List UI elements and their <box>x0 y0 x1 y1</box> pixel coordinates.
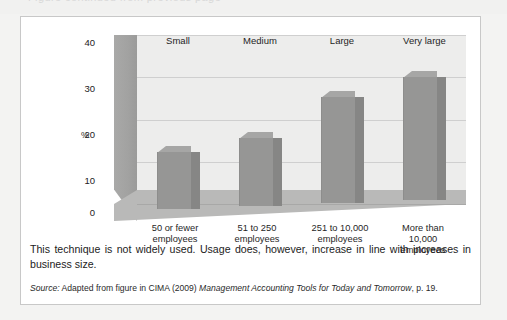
bar-small <box>157 152 191 209</box>
column-header-very-large: Very large <box>383 35 466 46</box>
figure-box: % 40 30 20 10 0 Small Medium Large <box>20 16 481 305</box>
bar-small-side <box>191 152 200 209</box>
column-header-large: Large <box>301 35 383 46</box>
bar-very-large-front <box>403 77 438 200</box>
bar-small-front <box>157 152 192 209</box>
document-page: Figure continued from previous page % 40… <box>0 0 507 320</box>
bar-very-large-side <box>437 77 446 200</box>
bar-large-side <box>355 97 364 203</box>
bar-medium-side <box>273 138 282 206</box>
x-label-small-line1: 50 or fewer <box>133 223 217 234</box>
bar-medium-front <box>239 138 274 206</box>
chart-plot-area: Small Medium Large Very large <box>114 35 466 221</box>
source-title: Management Accounting Tools for Today an… <box>199 283 411 293</box>
bar-chart: % 40 30 20 10 0 Small Medium Large <box>21 17 480 232</box>
x-label-medium-line1: 51 to 250 <box>215 223 299 234</box>
y-tick-0: 0 <box>69 207 95 218</box>
source-label: Source: <box>30 283 60 293</box>
bar-large-front <box>321 97 356 203</box>
y-tick-10: 10 <box>69 175 95 186</box>
bar-very-large <box>403 77 437 200</box>
column-header-medium: Medium <box>219 35 301 46</box>
x-label-very-large-line1: More than <box>381 223 465 234</box>
cut-off-heading-strip: Figure continued from previous page <box>0 0 507 14</box>
source-suffix: , p. 19. <box>411 283 437 293</box>
y-tick-40: 40 <box>69 37 95 48</box>
figure-source: Source: Adapted from figure in CIMA (200… <box>30 283 471 294</box>
source-prefix: Adapted from figure in CIMA (2009) <box>60 283 199 293</box>
bar-medium <box>239 138 273 206</box>
figure-caption: This technique is not widely used. Usage… <box>30 242 471 271</box>
y-tick-20: 20 <box>69 129 95 140</box>
cut-off-heading-text: Figure continued from previous page <box>28 0 221 3</box>
column-header-small: Small <box>137 35 219 46</box>
y-tick-30: 30 <box>69 83 95 94</box>
x-label-large-line1: 251 to 10,000 <box>295 223 385 234</box>
bar-large <box>321 97 355 203</box>
